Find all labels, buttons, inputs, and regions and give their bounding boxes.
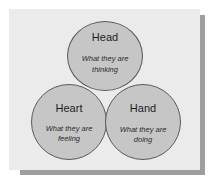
circle-hand: Hand What they are doing — [105, 84, 181, 160]
circle-hand-label: Hand — [106, 102, 180, 114]
circle-heart: Heart What they are feeling — [31, 84, 107, 160]
circle-hand-description-line2: doing — [106, 135, 180, 145]
circle-heart-description-line2: feeling — [32, 134, 106, 144]
circle-heart-description-line1: What they are — [32, 124, 106, 134]
circle-head-description-line1: What they are — [68, 54, 142, 64]
circle-heart-label: Heart — [32, 102, 106, 114]
circle-head-label: Head — [68, 31, 142, 43]
circle-head-description-line2: thinking — [68, 65, 142, 75]
circle-hand-description-line1: What they are — [106, 125, 180, 135]
circle-head: Head What they are thinking — [67, 21, 143, 91]
